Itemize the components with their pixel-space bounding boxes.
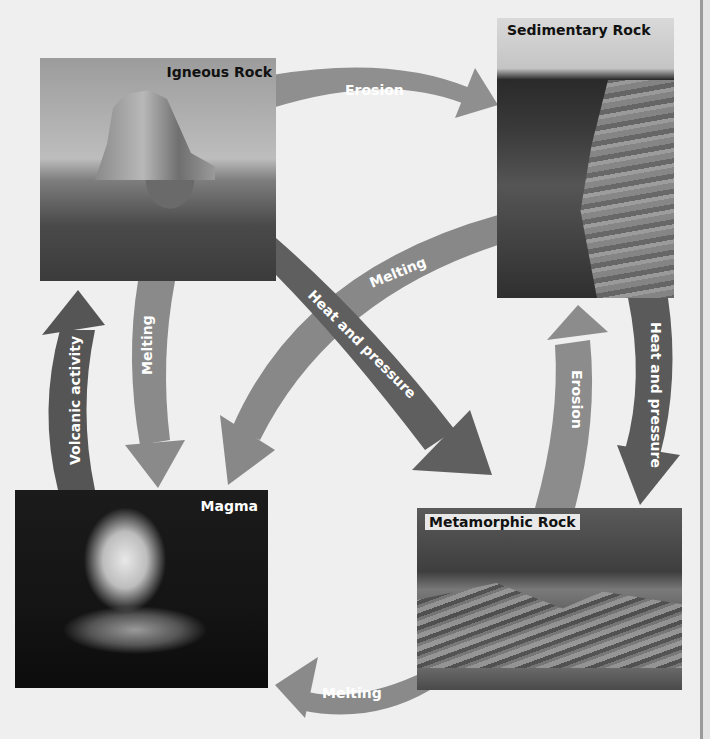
igneous-rock-label: Igneous Rock [167,64,273,80]
folded-layers [417,583,682,668]
label-erosion-top: Erosion [345,82,404,98]
arrow-erosion-igneous-to-sedimentary: Erosion [272,67,498,118]
arrow-volcanic-activity-magma-to-igneous: Volcanic activity [42,290,105,490]
sedimentary-rock-photo: Sedimentary Rock [497,18,674,298]
arrow-erosion-metamorphic-to-sedimentary: Erosion [535,305,608,508]
arrow-melting-metamorphic-to-magma: Melting [275,657,430,718]
mesa-shape [95,90,215,180]
arrow-heat-pressure-sedimentary-to-metamorphic: Heat and pressure [617,298,680,505]
label-volcanic-activity: Volcanic activity [67,336,83,465]
metamorphic-rock-label: Metamorphic Rock [425,514,580,530]
magma-label: Magma [201,498,258,514]
igneous-rock-photo: Igneous Rock [40,58,276,281]
arrow-melting-igneous-to-magma: Melting [125,281,185,488]
sedimentary-rock-label: Sedimentary Rock [507,22,651,38]
magma-photo: Magma [15,490,268,688]
label-erosion-right: Erosion [569,370,585,429]
label-heat-pressure-right: Heat and pressure [648,322,664,468]
label-melting-left: Melting [139,315,155,375]
cliff-layers [564,80,674,298]
label-melting-bottom: Melting [322,685,382,701]
metamorphic-rock-photo: Metamorphic Rock [417,508,682,690]
